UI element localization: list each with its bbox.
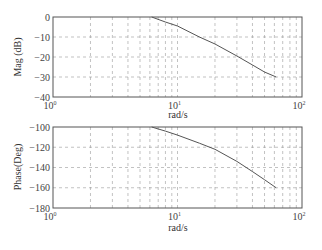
y-tick-label: 0 xyxy=(45,12,50,23)
magnitude-plot: 0−10−20−30−40 100101102 rad/s Mag (dB) xyxy=(12,12,306,121)
magnitude-y-ticks: 0−10−20−30−40 xyxy=(34,12,50,103)
x-tick-label: 102 xyxy=(293,100,306,111)
magnitude-x-label: rad/s xyxy=(168,109,188,120)
y-tick-label: −140 xyxy=(29,162,50,173)
x-tick-label: 100 xyxy=(44,100,57,111)
x-tick-label: 100 xyxy=(44,211,57,222)
y-tick-label: −30 xyxy=(34,72,50,83)
x-tick-label: 101 xyxy=(168,211,181,222)
y-tick-label: −10 xyxy=(34,32,50,43)
phase-x-label: rad/s xyxy=(168,222,188,233)
y-tick-label: −20 xyxy=(34,52,50,63)
x-tick-label: 102 xyxy=(293,211,306,222)
bode-plot: 0−10−20−30−40 100101102 rad/s Mag (dB) −… xyxy=(0,0,322,250)
magnitude-grid xyxy=(53,17,302,97)
magnitude-y-label: Mag (dB) xyxy=(12,37,24,76)
magnitude-curve xyxy=(152,17,277,77)
y-tick-label: −160 xyxy=(29,182,50,193)
phase-grid xyxy=(53,127,302,208)
y-tick-label: −120 xyxy=(29,142,50,153)
y-tick-label: −100 xyxy=(29,122,50,133)
phase-y-label: Phase(Deg) xyxy=(12,144,24,191)
phase-curve xyxy=(152,127,277,188)
phase-x-ticks: 100101102 xyxy=(44,211,306,222)
phase-y-ticks: −100−120−140−160−180 xyxy=(29,122,50,214)
phase-plot: −100−120−140−160−180 100101102 rad/s Pha… xyxy=(12,122,306,234)
